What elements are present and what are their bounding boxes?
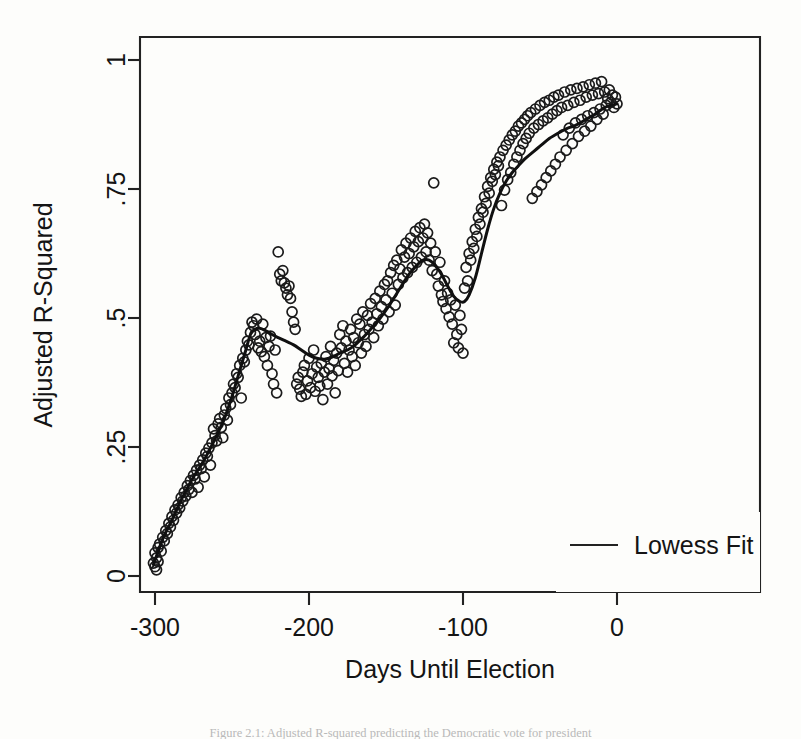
x-axis-label: Days Until Election [345,655,555,683]
plot-background [0,0,801,739]
figure-caption: Figure 2.1: Adjusted R-squared predictin… [0,723,801,739]
x-tick-label: -100 [438,613,488,641]
y-axis-label: Adjusted R-Squared [29,202,57,427]
legend: Lowess Fit [556,512,760,592]
y-tick-label: .25 [102,430,130,465]
x-tick-label: -300 [130,613,180,641]
y-tick-label: 0 [102,569,130,583]
figure-container: 0.25.5.751-300-200-1000 Lowess Fit Adjus… [0,0,801,739]
x-tick-label: 0 [610,613,624,641]
x-tick-label: -200 [284,613,334,641]
y-tick-label: 1 [102,53,130,67]
y-tick-label: .5 [102,308,130,329]
legend-entry-label: Lowess Fit [634,531,754,559]
y-tick-label: .75 [102,172,130,207]
scatter-plot: 0.25.5.751-300-200-1000 Lowess Fit Adjus… [0,0,801,739]
